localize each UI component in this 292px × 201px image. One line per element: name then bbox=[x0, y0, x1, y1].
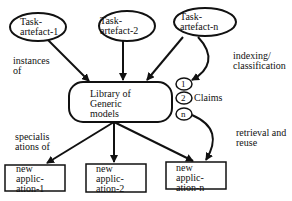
claim-2: 2 bbox=[181, 93, 186, 103]
application-1-label: newapplic-ation-1 bbox=[16, 164, 44, 194]
specialisations-of-label: specialisations of bbox=[15, 132, 50, 152]
claim-n: n bbox=[181, 109, 186, 119]
task-artefact-1-label: Task-artefact-1 bbox=[20, 17, 58, 37]
library-label: Library ofGenericmodels bbox=[90, 89, 131, 119]
instances-of-label: instancesof bbox=[13, 56, 50, 76]
claim-1: 1 bbox=[181, 79, 186, 89]
retrieval-reuse-label: retrieval andreuse bbox=[236, 128, 286, 148]
task-artefact-n-label: Task-artefact-n bbox=[180, 12, 218, 32]
application-2-label: newapplic-ation-2 bbox=[96, 164, 124, 194]
task-artefact-2-label: Task-artefact-2 bbox=[100, 16, 138, 36]
claims-label: Claims bbox=[194, 93, 222, 103]
indexing-classification-label: indexing/classification bbox=[233, 51, 286, 71]
application-n-label: newapplic-ation-n bbox=[176, 163, 204, 193]
